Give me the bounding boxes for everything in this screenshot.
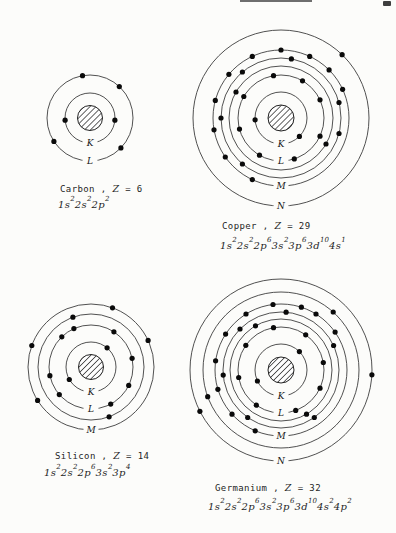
- electron-dot: [226, 72, 231, 77]
- electron-dot: [243, 311, 248, 316]
- electron-dot: [331, 309, 336, 314]
- electron-dot: [59, 334, 64, 339]
- electron-dot: [321, 360, 326, 365]
- caption-separator: ,: [96, 451, 113, 461]
- electron-dot: [253, 323, 258, 328]
- electron-dot: [253, 428, 258, 433]
- orbital-occupancy: 2: [87, 195, 91, 203]
- orbital-term: 2p: [92, 199, 106, 210]
- electron-dot: [108, 402, 113, 407]
- electron-dot: [112, 118, 117, 123]
- electron-dot: [71, 326, 76, 331]
- silicon-shell-label: K: [87, 387, 96, 397]
- orbital-term: 4s: [317, 501, 329, 512]
- orbital-term: 3p: [276, 501, 290, 512]
- electron-dot: [255, 378, 260, 383]
- element-name: Germanium: [215, 483, 267, 493]
- orbital-term: 4s: [329, 240, 341, 251]
- electron-dot: [118, 145, 123, 150]
- caption-separator: ,: [95, 184, 112, 194]
- carbon-caption: Carbon , Z = 6: [60, 183, 143, 194]
- element-name: Carbon: [60, 184, 95, 194]
- electron-dot: [221, 373, 226, 378]
- atomic-number-symbol: Z: [285, 482, 292, 493]
- scanned-figure-page: KLKLMNKLMKLMN Carbon , Z = 61s22s22p2Cop…: [0, 0, 396, 533]
- electron-dot: [292, 156, 297, 161]
- electron-dot: [297, 349, 302, 354]
- silicon-nucleus: [79, 355, 104, 380]
- orbital-term: 3p: [112, 467, 126, 478]
- electron-dot: [236, 375, 241, 380]
- electron-dot: [307, 54, 312, 59]
- orbital-term: 3p: [288, 240, 302, 251]
- orbital-occupancy: 6: [302, 236, 306, 244]
- orbital-term: 1s: [44, 467, 56, 478]
- orbital-term: 2s: [75, 199, 87, 210]
- orbital-term: 1s: [220, 240, 232, 251]
- electron-dot: [331, 343, 336, 348]
- electron-dot: [253, 117, 258, 122]
- orbital-occupancy: 2: [232, 236, 236, 244]
- germanium-nucleus: [268, 357, 294, 383]
- electron-dot: [29, 343, 34, 348]
- orbital-occupancy: 2: [284, 236, 288, 244]
- carbon-shell-label: K: [86, 138, 95, 148]
- electron-dot: [304, 412, 309, 417]
- electron-dot: [300, 78, 305, 83]
- orbital-term: 3d: [294, 501, 308, 512]
- electron-dot: [289, 56, 294, 61]
- copper-shell-label: M: [275, 181, 286, 191]
- electron-dot: [67, 377, 72, 382]
- electron-dot: [303, 332, 308, 337]
- orbital-occupancy: 2: [56, 463, 60, 471]
- electron-dot: [35, 398, 40, 403]
- orbital-occupancy: 2: [237, 497, 241, 505]
- electron-dot: [110, 305, 115, 310]
- electron-dot: [240, 69, 245, 74]
- electron-dot: [327, 67, 332, 72]
- orbital-occupancy: 6: [255, 497, 259, 505]
- orbital-occupancy: 2: [73, 463, 77, 471]
- electron-dot: [317, 97, 322, 102]
- germanium-electron-configuration: 1s22s22p63s23p63d104s24p2: [208, 500, 352, 512]
- orbital-occupancy: 1: [341, 236, 345, 244]
- corner-mark-artifact: [383, 1, 391, 6]
- element-name: Silicon: [55, 451, 96, 461]
- electron-dot: [218, 115, 223, 120]
- orbital-occupancy: 10: [308, 497, 317, 505]
- silicon-shell-label: M: [85, 425, 96, 435]
- germanium-shell-label: N: [276, 456, 286, 466]
- electron-dot: [233, 89, 238, 94]
- orbital-occupancy: 10: [320, 236, 329, 244]
- atomic-number-value: = 14: [120, 451, 149, 461]
- orbital-term: 2p: [78, 467, 92, 478]
- orbital-occupancy: 2: [70, 195, 74, 203]
- electron-dot: [312, 415, 317, 420]
- silicon-caption: Silicon , Z = 14: [55, 450, 149, 461]
- electron-dot: [243, 343, 248, 348]
- copper-diagram: KLMN: [193, 30, 369, 211]
- orbital-term: 2s: [237, 240, 249, 251]
- electron-dot: [237, 326, 242, 331]
- germanium-shell-label: M: [275, 431, 286, 441]
- electron-dot: [107, 414, 112, 419]
- silicon-diagram: KLM: [28, 304, 154, 435]
- atomic-number-value: = 32: [292, 483, 321, 493]
- electron-dot: [245, 415, 250, 420]
- copper-electron-configuration: 1s22s22p63s23p63d104s1: [220, 239, 346, 251]
- electron-dot: [278, 47, 283, 52]
- electron-dot: [271, 73, 276, 78]
- orbital-occupancy: 2: [108, 463, 112, 471]
- carbon-nucleus: [78, 106, 103, 131]
- orbital-term: 1s: [208, 501, 220, 512]
- electron-dot: [270, 302, 275, 307]
- electron-dot: [57, 392, 62, 397]
- electron-dot: [313, 311, 318, 316]
- copper-caption: Copper , Z = 29: [222, 220, 311, 231]
- electron-dot: [340, 52, 345, 57]
- electron-dot: [333, 330, 338, 335]
- copper-shell-label: N: [276, 201, 286, 211]
- electron-dot: [197, 409, 202, 414]
- orbital-term: 3s: [272, 240, 284, 251]
- electron-dot: [336, 100, 341, 105]
